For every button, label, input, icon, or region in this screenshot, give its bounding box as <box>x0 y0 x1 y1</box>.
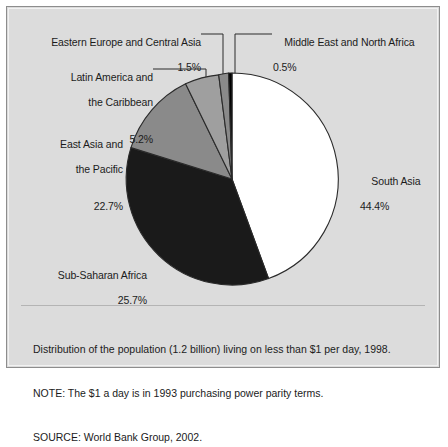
leader-line-eastern-europe <box>201 34 223 77</box>
label-east-asia-line1: East Asia and <box>60 138 123 150</box>
caption-line-title: Distribution of the population (1.2 bill… <box>33 342 423 357</box>
caption-line-source: SOURCE: World Bank Group, 2002. <box>33 430 423 445</box>
pie-slices <box>126 73 338 285</box>
label-east-asia-value: 22.7% <box>17 200 123 213</box>
label-south-asia-text: South Asia <box>371 175 420 187</box>
label-latin-america-line1: Latin America and <box>71 71 153 83</box>
caption-line-note: NOTE: The $1 a day is in 1993 purchasing… <box>33 386 423 401</box>
label-east-asia-line2: the Pacific <box>17 163 123 176</box>
label-latin-america-line2: the Caribbean <box>29 96 153 109</box>
label-sub-saharan-text: Sub-Saharan Africa <box>58 269 147 281</box>
leader-line-middle-east <box>235 34 272 75</box>
label-eastern-europe-text: Eastern Europe and Central Asia <box>51 36 201 48</box>
caption-separator <box>21 305 425 306</box>
label-east-asia-pacific: East Asia and the Pacific 22.7% <box>17 125 123 238</box>
label-south-asia-value: 44.4% <box>360 200 440 213</box>
figure-frame: Eastern Europe and Central Asia 1.5% Lat… <box>6 6 440 368</box>
caption-block: Distribution of the population (1.2 bill… <box>33 313 423 447</box>
label-middle-east-value: 0.5% <box>273 61 443 74</box>
label-middle-east-north-africa: Middle East and North Africa 0.5% <box>273 23 443 98</box>
label-south-asia: South Asia 44.4% <box>360 162 440 237</box>
label-middle-east-text: Middle East and North Africa <box>284 36 414 48</box>
